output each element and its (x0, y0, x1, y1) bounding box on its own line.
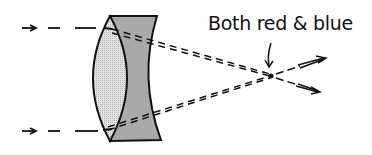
incoming-ray-bottom (22, 128, 112, 134)
focal-point (269, 74, 274, 79)
doublet-diagram: Both red & blue (0, 0, 372, 155)
incoming-ray-top (22, 25, 112, 31)
outgoing-rays (276, 56, 326, 94)
annotation-label: Both red & blue (208, 12, 353, 34)
pointer-arrow (265, 43, 273, 67)
